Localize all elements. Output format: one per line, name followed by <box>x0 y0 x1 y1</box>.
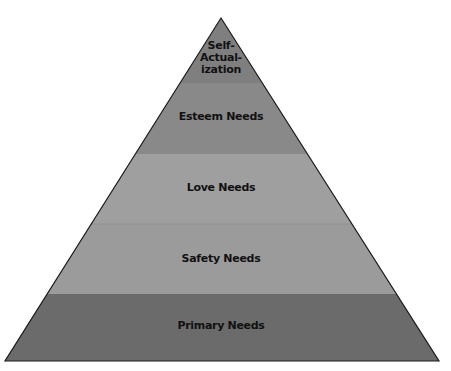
label-love-needs: Love Needs <box>121 182 321 194</box>
label-self-actualization: Self- Actual- ization <box>121 40 321 76</box>
label-primary-needs: Primary Needs <box>121 320 321 332</box>
label-safety-needs: Safety Needs <box>121 253 321 265</box>
label-esteem-needs: Esteem Needs <box>121 111 321 123</box>
